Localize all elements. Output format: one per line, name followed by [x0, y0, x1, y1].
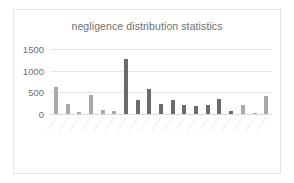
- bar: [194, 106, 198, 114]
- x-axis-label-slot: ——————: [120, 115, 132, 170]
- bar-slot: [190, 49, 202, 114]
- bar: [77, 112, 81, 114]
- x-axis-label-slot: ——————: [260, 115, 272, 170]
- y-axis-tick-label: 500: [28, 87, 44, 98]
- bar-slot: [97, 49, 109, 114]
- x-axis-label-slot: ——————: [214, 115, 226, 170]
- bar-slot: [237, 49, 249, 114]
- x-axis-label-slot: ——————: [97, 115, 109, 170]
- bar: [264, 96, 268, 114]
- bar-slot: [249, 49, 261, 114]
- bar-slot: [144, 49, 156, 114]
- bar: [171, 100, 175, 114]
- bar: [66, 104, 70, 114]
- y-axis-tick-label: 1500: [23, 44, 44, 55]
- x-axis-label-slot: ——————: [179, 115, 191, 170]
- plot-area: [50, 49, 272, 114]
- bar-slot: [108, 49, 120, 114]
- x-axis-label-slot: ——————: [237, 115, 249, 170]
- bar: [54, 87, 58, 114]
- bar-slot: [167, 49, 179, 114]
- bar-slot: [202, 49, 214, 114]
- bar: [124, 59, 128, 114]
- y-axis-tick-label: 1000: [23, 65, 44, 76]
- bar: [206, 105, 210, 114]
- x-axis-label-slot: ——————: [225, 115, 237, 170]
- x-axis-label-slot: ——————: [249, 115, 261, 170]
- bar: [89, 95, 93, 115]
- x-axis-label-slot: ——————: [73, 115, 85, 170]
- bar-slot: [73, 49, 85, 114]
- bar: [112, 111, 116, 114]
- bar-series: [50, 49, 272, 114]
- bar-slot: [120, 49, 132, 114]
- bar: [159, 104, 163, 114]
- x-axis-label-slot: ——————: [108, 115, 120, 170]
- bar: [229, 111, 233, 114]
- bar-slot: [132, 49, 144, 114]
- bar: [253, 113, 257, 114]
- bar-slot: [260, 49, 272, 114]
- x-axis-tick-label: ——————: [47, 117, 58, 132]
- x-axis-label-slot: ——————: [155, 115, 167, 170]
- bar-slot: [179, 49, 191, 114]
- bar-slot: [225, 49, 237, 114]
- y-axis-tick-label: 0: [39, 109, 44, 120]
- chart-container: negligence distribution statistics 05001…: [13, 9, 281, 174]
- bar-slot: [85, 49, 97, 114]
- bar: [182, 105, 186, 114]
- x-axis-label-slot: ——————: [190, 115, 202, 170]
- y-axis: 050010001500: [14, 49, 47, 114]
- bar: [241, 105, 245, 114]
- chart-title: negligence distribution statistics: [14, 20, 280, 32]
- bar-slot: [62, 49, 74, 114]
- bar-slot: [155, 49, 167, 114]
- bar: [147, 89, 151, 114]
- bar-slot: [50, 49, 62, 114]
- x-axis-label-slot: ——————: [50, 115, 62, 170]
- bar: [101, 110, 105, 114]
- x-axis: ————————————————————————————————————————…: [50, 115, 272, 170]
- x-axis-label-slot: ——————: [85, 115, 97, 170]
- x-axis-label-slot: ——————: [144, 115, 156, 170]
- bar-slot: [214, 49, 226, 114]
- x-axis-label-slot: ——————: [62, 115, 74, 170]
- bar: [136, 100, 140, 114]
- bar: [217, 99, 221, 114]
